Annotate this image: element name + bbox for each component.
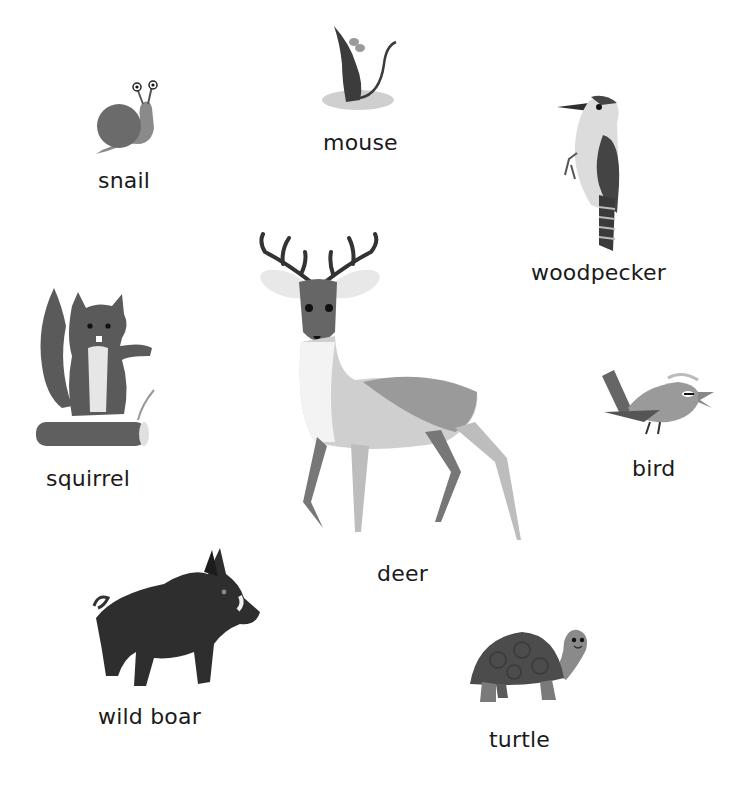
squirrel-illustration xyxy=(32,286,157,451)
deer-label: deer xyxy=(377,561,428,586)
snail-icon xyxy=(92,78,162,162)
mouse-illustration xyxy=(320,24,400,110)
squirrel-label: squirrel xyxy=(46,466,130,491)
woodpecker-label: woodpecker xyxy=(531,260,666,285)
woodpecker-illustration xyxy=(555,95,625,255)
mouse-icon xyxy=(320,24,400,110)
turtle-illustration xyxy=(468,626,590,706)
deer-illustration xyxy=(255,232,530,542)
wild-boar-icon xyxy=(84,548,262,690)
deer-icon xyxy=(255,232,530,542)
squirrel-icon xyxy=(32,286,157,451)
woodpecker-icon xyxy=(555,95,625,255)
snail-label: snail xyxy=(98,168,150,193)
turtle-icon xyxy=(468,626,590,706)
bird-label: bird xyxy=(632,456,676,481)
bird-illustration xyxy=(598,368,716,442)
wild-boar-label: wild boar xyxy=(98,704,201,729)
bird-icon xyxy=(598,368,716,442)
turtle-label: turtle xyxy=(489,727,550,752)
mouse-label: mouse xyxy=(323,130,398,155)
wild-boar-illustration xyxy=(84,548,262,690)
snail-illustration xyxy=(92,78,162,162)
